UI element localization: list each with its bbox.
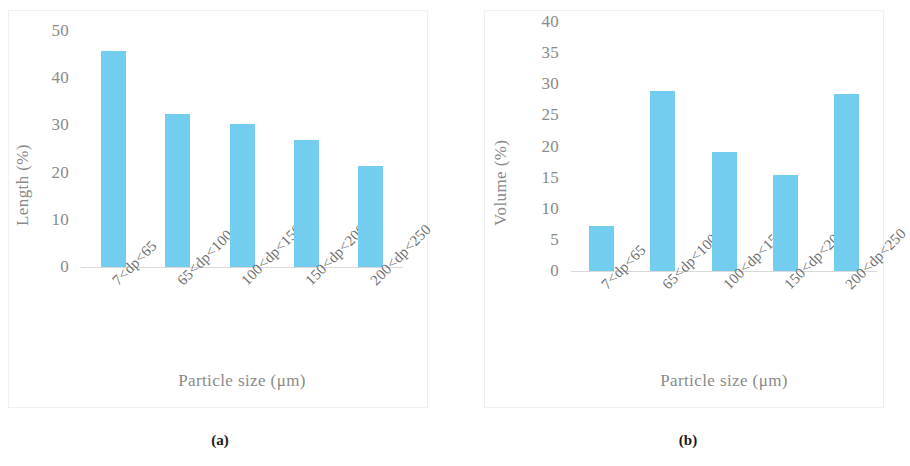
y-axis-title-a: Length (%) bbox=[13, 144, 33, 226]
bar bbox=[773, 175, 798, 271]
panel-caption-b: (b) bbox=[608, 432, 768, 449]
bar bbox=[294, 140, 319, 267]
bar bbox=[101, 51, 126, 267]
y-tick-label-b: 20 bbox=[503, 138, 559, 155]
bar bbox=[230, 124, 255, 267]
bar bbox=[834, 94, 859, 271]
y-tick-label-a: 0 bbox=[13, 258, 69, 275]
y-tick-label-b: 25 bbox=[503, 106, 559, 123]
plot-area-a: 01020304050Length (%)7<dp<6565<dp<100100… bbox=[9, 11, 427, 407]
y-tick-label-a: 30 bbox=[13, 116, 69, 133]
chart-panel-a: 01020304050Length (%)7<dp<6565<dp<100100… bbox=[8, 10, 428, 408]
bar bbox=[358, 166, 383, 267]
y-tick-label-b: 0 bbox=[503, 262, 559, 279]
x-axis-title-a: Particle size (μm) bbox=[81, 371, 403, 391]
chart-panel-b: 0510152025303540Volume (%)7<dp<6565<dp<1… bbox=[484, 10, 884, 408]
panel-caption-a: (a) bbox=[140, 432, 300, 449]
x-axis-title-b: Particle size (μm) bbox=[571, 371, 877, 391]
y-tick-label-a: 40 bbox=[13, 69, 69, 86]
y-axis-title-b: Volume (%) bbox=[491, 140, 511, 226]
bar bbox=[650, 91, 675, 271]
y-tick-label-a: 50 bbox=[13, 22, 69, 39]
y-tick-label-b: 35 bbox=[503, 44, 559, 61]
bar bbox=[589, 226, 614, 271]
y-tick-label-b: 40 bbox=[503, 13, 559, 30]
y-tick-label-b: 15 bbox=[503, 169, 559, 186]
bar bbox=[165, 114, 190, 267]
plot-area-b: 0510152025303540Volume (%)7<dp<6565<dp<1… bbox=[485, 11, 883, 407]
y-tick-label-b: 10 bbox=[503, 200, 559, 217]
y-tick-label-b: 5 bbox=[503, 231, 559, 248]
bar bbox=[712, 152, 737, 271]
y-tick-label-b: 30 bbox=[503, 75, 559, 92]
